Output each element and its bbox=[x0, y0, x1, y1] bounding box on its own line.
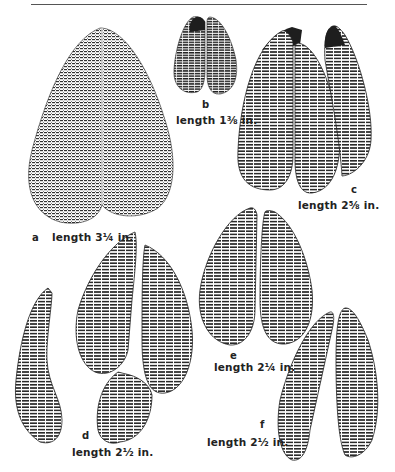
track-c bbox=[238, 26, 371, 193]
track-d-letter: d bbox=[82, 430, 89, 441]
track-e-length-label: length 2¼ in. bbox=[214, 361, 295, 373]
track-a-letter: a bbox=[32, 232, 39, 243]
track-a-length-label: length 3¼ in. bbox=[52, 231, 133, 243]
track-b-length-label: length 1⅜ in. bbox=[176, 114, 257, 126]
track-b bbox=[174, 17, 237, 94]
track-e bbox=[199, 208, 312, 345]
track-e-letter: e bbox=[230, 350, 237, 361]
track-f-letter: f bbox=[260, 419, 264, 430]
track-b-letter: b bbox=[202, 99, 209, 110]
track-c-length-label: length 2⅝ in. bbox=[298, 199, 379, 211]
track-d bbox=[15, 232, 192, 443]
track-c-letter: c bbox=[351, 184, 357, 195]
track-f-length-label: length 2½ in. bbox=[207, 436, 288, 448]
track-a bbox=[29, 28, 173, 223]
track-d-length-label: length 2½ in. bbox=[72, 446, 153, 458]
